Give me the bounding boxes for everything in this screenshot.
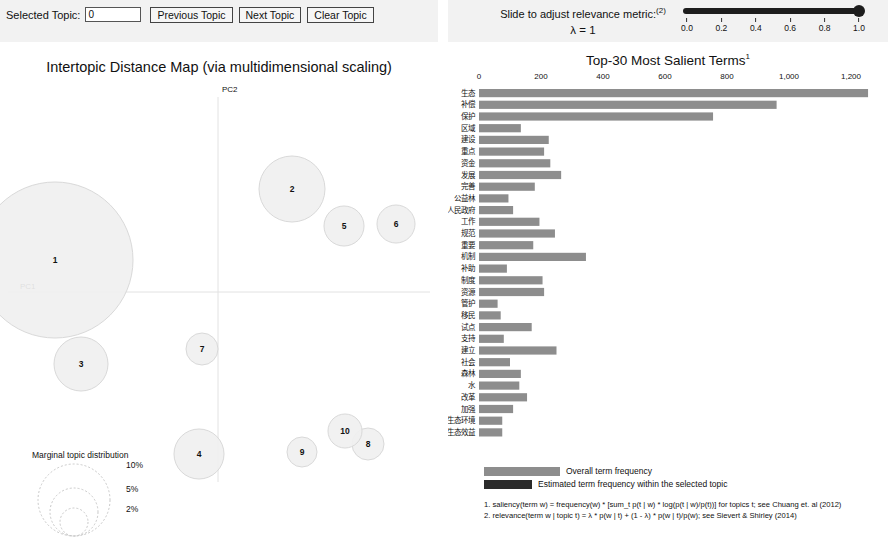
clear-topic-button[interactable]: Clear Topic [307, 7, 373, 23]
salient-terms-bar-chart[interactable]: 02004006008001,0001,200 生态补偿保护区域建设重点资金发展… [448, 42, 888, 462]
term-label-20[interactable]: 试点 [461, 322, 476, 332]
selected-topic-label: Selected Topic: [6, 7, 80, 23]
topic-bubble-1[interactable] [0, 182, 133, 338]
term-label-21[interactable]: 支持 [461, 333, 476, 343]
bar-overall-10[interactable] [479, 206, 513, 214]
term-label-12[interactable]: 规范 [461, 228, 476, 238]
bar-overall-19[interactable] [479, 311, 501, 319]
bar-overall-13[interactable] [479, 241, 533, 249]
bar-overall-27[interactable] [479, 405, 513, 413]
bar-chart-legend: Overall term frequency Estimated term fr… [484, 466, 888, 492]
x-axis-tick-label-0: 0 [477, 72, 482, 81]
term-label-25[interactable]: 水 [468, 380, 476, 390]
term-label-14[interactable]: 机制 [461, 251, 475, 261]
term-label-0[interactable]: 生态 [461, 88, 476, 98]
term-label-7[interactable]: 发展 [461, 170, 476, 180]
bar-chart-term-labels[interactable]: 生态补偿保护区域建设重点资金发展完善公益林人民政府工作规范重要机制补助制度资源管… [448, 88, 476, 437]
slider-tick-label: 0.8 [819, 23, 831, 33]
term-label-6[interactable]: 资金 [461, 158, 476, 168]
term-label-5[interactable]: 重点 [461, 147, 476, 156]
term-label-28[interactable]: 生态环境 [448, 415, 476, 425]
slider-tick-mark [790, 18, 791, 22]
term-label-18[interactable]: 管护 [461, 298, 475, 308]
bar-chart-bars[interactable] [479, 89, 868, 437]
bar-overall-1[interactable] [479, 101, 777, 109]
bar-overall-3[interactable] [479, 124, 521, 132]
bar-overall-0[interactable] [479, 89, 868, 97]
slider-tick-label: 0.6 [784, 23, 796, 33]
bar-overall-14[interactable] [479, 253, 586, 261]
term-label-2[interactable]: 保护 [461, 111, 475, 121]
marginal-legend-label-2%: 2% [126, 504, 138, 514]
term-label-9[interactable]: 公益林 [454, 193, 476, 203]
term-label-23[interactable]: 社会 [461, 357, 476, 367]
bar-overall-25[interactable] [479, 382, 519, 390]
legend-row-overall: Overall term frequency [484, 466, 888, 476]
term-label-27[interactable]: 加强 [461, 404, 476, 414]
bar-overall-23[interactable] [479, 358, 510, 366]
bar-overall-6[interactable] [479, 159, 550, 167]
term-label-26[interactable]: 改革 [461, 392, 476, 402]
lambda-control-bar: Slide to adjust relevance metric:(2) λ =… [448, 0, 888, 42]
term-label-1[interactable]: 补偿 [461, 99, 476, 109]
term-label-17[interactable]: 资源 [461, 287, 476, 297]
bar-overall-18[interactable] [479, 300, 498, 308]
x-axis-tick-label-600: 600 [658, 72, 672, 81]
chart-footnotes: 1. saliency(term w) = frequency(w) * [su… [484, 499, 884, 521]
term-label-24[interactable]: 森林 [461, 368, 476, 378]
term-label-10[interactable]: 人民政府 [448, 205, 476, 215]
term-label-16[interactable]: 制度 [461, 275, 476, 285]
topic-bubble-group[interactable]: 12345678910 [0, 156, 415, 479]
term-label-11[interactable]: 工作 [461, 216, 476, 226]
bar-overall-12[interactable] [479, 229, 555, 237]
term-label-19[interactable]: 移民 [461, 310, 475, 320]
bar-overall-15[interactable] [479, 265, 507, 273]
bar-overall-22[interactable] [479, 346, 557, 354]
slider-tick-mark [686, 18, 687, 22]
bar-overall-20[interactable] [479, 323, 532, 331]
legend-label-selected: Estimated term frequency within the sele… [538, 479, 727, 489]
slider-tick-group: 0.00.20.40.60.81.0 [681, 18, 873, 36]
bar-overall-26[interactable] [479, 393, 527, 401]
bar-overall-28[interactable] [479, 417, 502, 425]
term-label-3[interactable]: 区域 [461, 123, 476, 133]
slider-tick-label: 1.0 [853, 23, 865, 33]
salient-terms-panel: Top-30 Most Salient Terms1 0200400600800… [448, 42, 888, 537]
bar-overall-16[interactable] [479, 276, 543, 284]
x-axis-tick-label-800: 800 [720, 72, 734, 81]
bar-overall-8[interactable] [479, 183, 535, 191]
legend-swatch-overall [484, 467, 560, 476]
bar-overall-29[interactable] [479, 428, 502, 436]
slider-handle[interactable] [853, 5, 865, 17]
term-label-4[interactable]: 建设 [461, 134, 476, 144]
term-label-8[interactable]: 完善 [461, 181, 476, 191]
selected-topic-input[interactable] [85, 7, 141, 22]
topic-bubble-label-5: 5 [342, 221, 347, 231]
term-label-29[interactable]: 生态效益 [448, 427, 476, 437]
marginal-legend-circles [38, 464, 110, 536]
pc2-axis-label: PC2 [222, 85, 238, 94]
slider-track[interactable] [683, 8, 861, 14]
bar-overall-9[interactable] [479, 194, 508, 202]
bar-overall-2[interactable] [479, 112, 713, 120]
bar-overall-24[interactable] [479, 370, 521, 378]
relevance-slider[interactable]: 0.00.20.40.60.81.0 [681, 6, 873, 38]
term-label-22[interactable]: 建立 [461, 345, 476, 355]
bar-overall-4[interactable] [479, 136, 549, 144]
marginal-legend-label-10%: 10% [126, 460, 143, 470]
bar-overall-7[interactable] [479, 171, 561, 179]
next-topic-button[interactable]: Next Topic [239, 7, 302, 23]
bar-overall-21[interactable] [479, 335, 504, 343]
slider-tick-label: 0.0 [681, 23, 693, 33]
bar-overall-17[interactable] [479, 288, 544, 296]
previous-topic-button[interactable]: Previous Topic [150, 7, 232, 23]
footnote-saliency: 1. saliency(term w) = frequency(w) * [su… [484, 499, 884, 510]
topic-bubble-label-6: 6 [394, 219, 399, 229]
topic-bubble-label-8: 8 [366, 439, 371, 449]
term-label-13[interactable]: 重要 [461, 241, 476, 250]
bar-overall-5[interactable] [479, 148, 544, 156]
term-label-15[interactable]: 补助 [461, 263, 475, 273]
marginal-topic-distribution-legend: Marginal topic distribution 2%5%10% [22, 450, 222, 537]
bar-overall-11[interactable] [479, 218, 539, 226]
slider-tick-mark [858, 18, 859, 22]
